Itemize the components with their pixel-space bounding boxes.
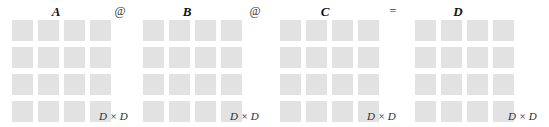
matrix-cell (415, 20, 436, 41)
matrix-cell (467, 47, 488, 68)
matrix-equation-figure: A D × D @ B (0, 0, 549, 127)
matrix-cell (415, 74, 436, 95)
matrix-cell (441, 20, 462, 41)
matrix-cell (493, 20, 514, 41)
matrix-cell (441, 47, 462, 68)
matrix-cell (467, 101, 488, 122)
matrix-group-d: D D × D (0, 0, 549, 127)
matrix-cell (467, 74, 488, 95)
matrix-dimension-label-d: D × D (508, 110, 537, 123)
matrix-cell (415, 101, 436, 122)
matrix-cell (441, 101, 462, 122)
matrix-cell (415, 47, 436, 68)
matrix-cell (441, 74, 462, 95)
matrix-cell (493, 74, 514, 95)
matrix-cell (493, 47, 514, 68)
matrix-label-d: D (448, 4, 468, 19)
matrix-grid-d (415, 20, 514, 122)
matrix-cell (467, 20, 488, 41)
